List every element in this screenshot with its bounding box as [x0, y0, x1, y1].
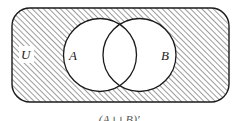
caption-clip: (A ∪ B)′ — [0, 111, 238, 121]
diagram-caption: (A ∪ B)′ — [0, 113, 238, 121]
set-a-label: A — [68, 48, 77, 63]
universal-set-label: U — [21, 47, 32, 62]
universal-set-shading — [12, 8, 229, 102]
venn-diagram: U A B — [0, 0, 238, 121]
set-b-label: B — [161, 48, 169, 63]
